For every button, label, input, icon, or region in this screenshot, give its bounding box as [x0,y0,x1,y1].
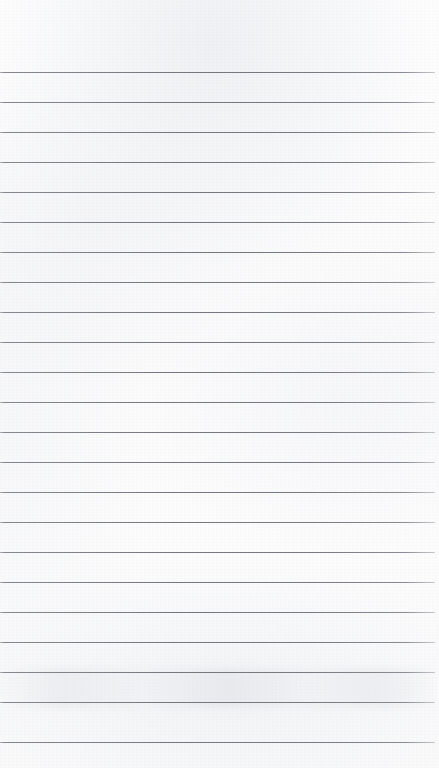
ruled-line [0,702,435,703]
ruled-line [0,312,435,313]
ruled-line [0,672,435,673]
ruled-line [0,252,435,253]
ruled-line [0,612,435,613]
ruled-line [0,552,435,553]
ruled-line [0,582,435,583]
ruled-line [0,192,435,193]
ruled-lines-layer [0,0,439,768]
ruled-line [0,222,435,223]
ruled-line [0,742,435,743]
ruled-line [0,372,435,373]
ruled-line [0,432,435,433]
ruled-line [0,342,435,343]
scanned-page [0,0,439,768]
ruled-line [0,642,435,643]
ruled-line [0,492,435,493]
ruled-line [0,402,435,403]
ruled-line [0,72,435,73]
ruled-line [0,522,435,523]
ruled-line [0,282,435,283]
ruled-line [0,132,435,133]
ruled-line [0,462,435,463]
ruled-line [0,162,435,163]
ruled-line [0,102,435,103]
